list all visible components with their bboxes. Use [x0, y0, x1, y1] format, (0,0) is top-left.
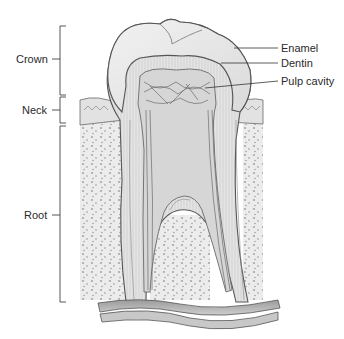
- label-enamel: Enamel: [281, 42, 318, 54]
- label-dentin: Dentin: [281, 57, 313, 69]
- label-crown: Crown: [16, 53, 48, 65]
- blood-vessels: [98, 300, 280, 329]
- left-brackets: [52, 26, 66, 302]
- label-neck: Neck: [22, 104, 47, 116]
- label-root: Root: [24, 209, 47, 221]
- label-pulp-cavity: Pulp cavity: [281, 75, 334, 87]
